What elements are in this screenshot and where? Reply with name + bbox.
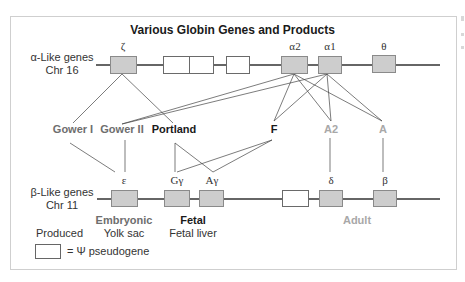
gene-g-gamma-label: Gγ bbox=[171, 174, 184, 186]
gene-theta-label: θ bbox=[381, 40, 386, 52]
gene-zeta-box bbox=[110, 56, 137, 74]
cropped-edge-mark bbox=[461, 33, 464, 36]
stage-fetal-site: Fetal liver bbox=[169, 227, 217, 240]
gene-alpha2-label: α2 bbox=[289, 40, 300, 52]
stage-embryonic-site: Yolk sac bbox=[96, 227, 153, 240]
stage-fetal-title: Fetal bbox=[169, 214, 217, 227]
pseudogene-box bbox=[163, 56, 190, 74]
gene-theta-box bbox=[372, 55, 396, 73]
stage-adult-title: Adult bbox=[343, 214, 371, 227]
legend-pseudogene-text: = Ψ pseudogene bbox=[67, 245, 149, 257]
stage-adult: Adult bbox=[343, 214, 371, 227]
product-a: A bbox=[379, 123, 387, 135]
gene-a-gamma-label: Aγ bbox=[206, 174, 219, 186]
product-gower-ii: Gower II bbox=[100, 123, 143, 135]
gene-alpha2-box bbox=[281, 56, 308, 74]
gene-beta-label: β bbox=[382, 174, 388, 186]
product-a2: A2 bbox=[324, 123, 338, 135]
pseudogene-box bbox=[189, 56, 214, 74]
cropped-edge-mark bbox=[461, 46, 464, 49]
gene-a-gamma-box bbox=[199, 190, 224, 207]
stage-embryonic: Embryonic Yolk sac bbox=[96, 214, 153, 240]
stage-embryonic-title: Embryonic bbox=[96, 214, 153, 227]
product-gower-i: Gower I bbox=[53, 123, 93, 135]
legend-pseudogene-swatch bbox=[35, 244, 61, 259]
gene-delta-label: δ bbox=[328, 174, 333, 186]
product-f: F bbox=[271, 123, 278, 135]
gene-epsilon-label: ε bbox=[122, 174, 127, 186]
gene-epsilon-box bbox=[111, 190, 138, 207]
gene-alpha1-box bbox=[318, 56, 342, 74]
pseudogene-box bbox=[226, 56, 250, 74]
gene-zeta-label: ζ bbox=[121, 40, 126, 52]
gene-alpha1-label: α1 bbox=[324, 40, 335, 52]
stage-fetal: Fetal Fetal liver bbox=[169, 214, 217, 240]
connection-lines bbox=[0, 0, 465, 282]
pseudogene-box bbox=[282, 190, 309, 207]
cropped-edge-mark bbox=[461, 16, 464, 21]
produced-label: Produced bbox=[36, 227, 83, 239]
product-portland: Portland bbox=[152, 123, 197, 135]
gene-g-gamma-box bbox=[164, 190, 190, 207]
gene-delta-box bbox=[319, 190, 343, 207]
gene-beta-box bbox=[373, 190, 397, 207]
